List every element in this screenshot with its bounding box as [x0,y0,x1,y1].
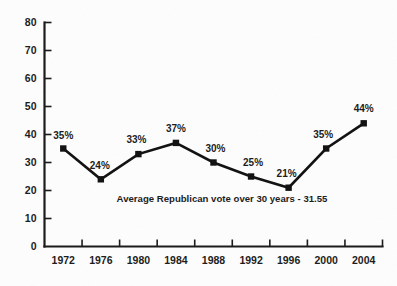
x-axis-tick-label: 1988 [202,254,226,266]
data-point-label: 25% [243,157,263,168]
x-axis-tick-label: 1980 [127,254,151,266]
y-axis-tick-label: 60 [25,72,37,84]
y-axis-tick-label: 40 [25,128,37,140]
y-axis-tick-label: 20 [25,184,37,196]
y-axis-tick-label: 30 [25,156,37,168]
data-point-label: 37% [166,123,186,134]
data-point-labels: 35%24%33%37%30%25%21%35%44% [53,103,374,178]
y-axis: 01020304050607080 [25,16,52,252]
data-point-marker [173,140,179,146]
data-point-marker [98,176,104,182]
data-point-label: 44% [354,103,374,114]
data-point-marker [248,173,254,179]
y-axis-tick-label: 80 [25,16,37,28]
x-axis-tick-label: 1992 [239,254,263,266]
data-point-label: 24% [90,160,110,171]
x-axis-tick-label: 1996 [277,254,301,266]
data-point-label: 30% [205,143,225,154]
chart-container: 01020304050607080 1972197619801984198819… [0,0,397,286]
x-axis: 197219761980198419881992199620002004 [45,240,383,266]
x-axis-tick-label: 2000 [314,254,338,266]
data-point-marker [135,151,141,157]
x-axis-tick-label: 1972 [52,254,76,266]
data-point-marker [361,120,367,126]
x-axis-tick-label: 1976 [89,254,113,266]
y-axis-tick-label: 10 [25,212,37,224]
y-axis-tick-label: 50 [25,100,37,112]
data-point-label: 33% [126,134,146,145]
line-chart: 01020304050607080 1972197619801984198819… [0,0,397,286]
x-axis-tick-label: 1984 [164,254,188,266]
data-point-marker [285,185,291,191]
data-point-label: 35% [53,130,73,141]
y-axis-tick-label: 70 [25,44,37,56]
data-point-marker [323,145,329,151]
data-point-marker [210,159,216,165]
y-axis-tick-label: 0 [31,240,37,252]
data-point-marker [60,145,66,151]
x-axis-tick-label: 2004 [352,254,376,266]
data-point-label: 21% [277,168,297,179]
data-point-label: 35% [313,129,333,140]
average-annotation: Average Republican vote over 30 years - … [117,193,328,204]
average-annotation-label: Average Republican vote over 30 years - … [117,193,328,204]
